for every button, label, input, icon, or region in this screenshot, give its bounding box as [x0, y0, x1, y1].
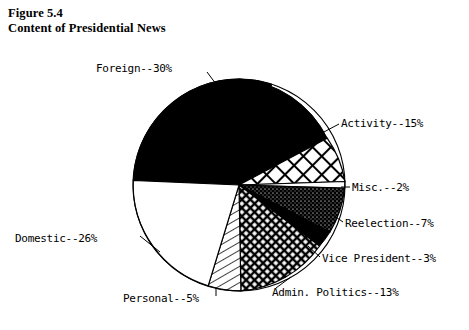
figure-page: Figure 5.4 Content of Presidential News: [0, 0, 469, 330]
pie-label-misc: Misc.--2%: [352, 181, 409, 194]
pie-label-reelection: Reelection--7%: [345, 217, 434, 230]
pie-label-personal: Personal--5%: [123, 292, 199, 305]
pie-label-foreign: Foreign--30%: [96, 62, 172, 75]
pie-label-activity: Activity--15%: [341, 117, 423, 130]
pie-slices: [133, 79, 345, 291]
pie-label-vice-president: Vice President--3%: [322, 252, 436, 265]
pie-label-domestic: Domestic--26%: [15, 232, 97, 245]
pie-slice-foreign-body[interactable]: [133, 79, 239, 185]
pie-chart: [0, 0, 469, 330]
pie-label-admin-politics: Admin. Politics--13%: [272, 286, 398, 299]
